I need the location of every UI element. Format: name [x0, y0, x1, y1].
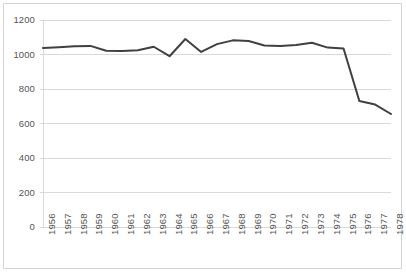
chart-container: 020040060080010001200 195619571958195919… [0, 0, 406, 273]
x-axis-label-1975: 1975 [348, 213, 358, 235]
x-axis-label-1968: 1968 [237, 213, 247, 235]
x-axis-label-1958: 1958 [79, 213, 89, 235]
x-axis-label-1976: 1976 [363, 213, 373, 235]
x-axis-label-1962: 1962 [142, 213, 152, 235]
x-axis-label-1960: 1960 [110, 213, 120, 235]
y-axis-label-400: 400 [1, 153, 35, 163]
x-axis-label-1963: 1963 [158, 213, 168, 235]
y-axis-label-800: 800 [1, 84, 35, 94]
x-axis-label-1966: 1966 [205, 213, 215, 235]
x-axis-label-1974: 1974 [332, 213, 342, 235]
x-axis-label-1965: 1965 [189, 213, 199, 235]
x-axis-label-1957: 1957 [63, 213, 73, 235]
x-axis-label-1973: 1973 [316, 213, 326, 235]
x-axis-label-1959: 1959 [94, 213, 104, 235]
y-axis-label-1000: 1000 [1, 50, 35, 60]
data-line-group [43, 39, 391, 114]
y-axis-label-0: 0 [1, 222, 35, 232]
x-axis-label-1971: 1971 [284, 213, 294, 235]
line-chart-plot [0, 0, 406, 273]
x-axis-label-1967: 1967 [221, 213, 231, 235]
x-axis-label-1977: 1977 [379, 213, 389, 235]
x-axis-label-1961: 1961 [126, 213, 136, 235]
data-series-line [43, 39, 391, 114]
x-axis-label-1978: 1978 [395, 213, 405, 235]
x-axis-label-1972: 1972 [300, 213, 310, 235]
gridlines-group [43, 20, 391, 227]
x-axis-label-1970: 1970 [268, 213, 278, 235]
axis-line-group [40, 20, 43, 227]
y-axis-label-200: 200 [1, 188, 35, 198]
y-axis-label-1200: 1200 [1, 15, 35, 25]
x-axis-label-1964: 1964 [174, 213, 184, 235]
x-axis-label-1956: 1956 [47, 213, 57, 235]
x-axis-label-1969: 1969 [253, 213, 263, 235]
y-axis-label-600: 600 [1, 119, 35, 129]
